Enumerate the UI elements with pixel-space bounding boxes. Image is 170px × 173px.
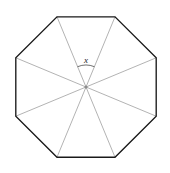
angle-label-x: x: [84, 56, 88, 65]
angle-arc: [78, 65, 95, 67]
octagon-diagram: x: [0, 0, 170, 173]
octagon-figure-svg: [0, 0, 170, 173]
center-point: [85, 86, 88, 89]
